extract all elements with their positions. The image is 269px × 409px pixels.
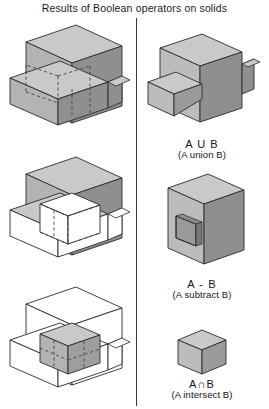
- isometric-diagram-1: [4, 20, 134, 150]
- boolean-operators-figure: Results of Boolean operators on solids: [0, 0, 269, 409]
- figure-subtract-result: [160, 172, 252, 276]
- subtract-solid: [160, 172, 252, 272]
- figure-union-result: [146, 26, 262, 138]
- caption-intersect: A∩B (A intersect B): [135, 378, 269, 401]
- isometric-diagram-2: [4, 152, 134, 278]
- figure-two-boxes-wireframe: [4, 282, 134, 409]
- subtract-caption: (A subtract B): [135, 290, 269, 301]
- union-caption: (A union B): [135, 150, 269, 161]
- caption-union: A U B (A union B): [135, 138, 269, 161]
- column-divider: [136, 18, 137, 406]
- figure-two-boxes-shaded: [4, 20, 134, 154]
- figure-two-boxes-intersection-highlighted: [4, 152, 134, 282]
- figure-intersect-result: [172, 326, 234, 382]
- union-solid: [146, 26, 262, 134]
- intersect-caption: (A intersect B): [135, 390, 269, 401]
- caption-subtract: A - B (A subtract B): [135, 278, 269, 301]
- isometric-diagram-3: [4, 282, 134, 406]
- page-title: Results of Boolean operators on solids: [0, 2, 269, 14]
- intersect-solid: [172, 326, 234, 378]
